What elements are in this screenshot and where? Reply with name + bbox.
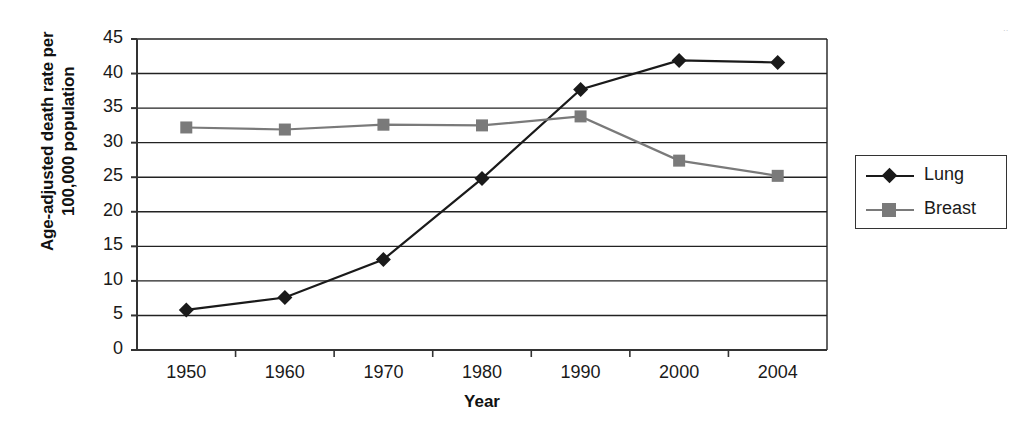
y-tick-label: 5: [89, 303, 123, 324]
legend-item-lung: Lung: [856, 159, 1006, 193]
y-tick-label: 40: [89, 62, 123, 83]
legend-item-breast: Breast: [856, 193, 1006, 227]
data-point-breast: [772, 170, 784, 182]
legend-label-breast: Breast: [924, 198, 976, 219]
scan-artifact: ··: [1003, 28, 1012, 33]
data-point-breast: [673, 155, 685, 167]
y-tick-label: 15: [89, 234, 123, 255]
chart-figure: Age-adjusted death rate per 100,000 popu…: [0, 0, 1030, 427]
x-tick-label: 1980: [437, 362, 527, 383]
data-point-breast: [476, 119, 488, 131]
data-point-breast: [180, 121, 192, 133]
y-tick-label: 30: [89, 131, 123, 152]
legend-label-lung: Lung: [924, 164, 964, 185]
diamond-marker-icon: [882, 168, 898, 184]
y-tick-label: 0: [89, 338, 123, 359]
y-tick-label: 10: [89, 269, 123, 290]
x-tick-label: 2004: [733, 362, 823, 383]
x-tick-label: 1970: [338, 362, 428, 383]
y-tick-label: 25: [89, 165, 123, 186]
x-tick-label: 1960: [240, 362, 330, 383]
data-point-lung: [277, 290, 292, 305]
y-tick-label: 45: [89, 27, 123, 48]
data-point-breast: [575, 110, 587, 122]
y-tick-label: 20: [89, 200, 123, 221]
x-tick-label: 2000: [634, 362, 724, 383]
x-axis-title: Year: [137, 392, 827, 412]
x-tick-label: 1950: [141, 362, 231, 383]
x-tick-label: 1990: [536, 362, 626, 383]
data-point-breast: [279, 124, 291, 136]
y-tick-label: 35: [89, 96, 123, 117]
square-marker-icon: [882, 203, 896, 217]
data-point-lung: [770, 55, 785, 70]
data-point-lung: [672, 53, 687, 68]
data-point-breast: [377, 119, 389, 131]
legend: Lung Breast: [855, 155, 1007, 229]
